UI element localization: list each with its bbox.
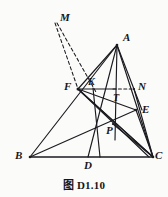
point-label-D: D — [84, 160, 92, 171]
point-label-C: C — [155, 150, 162, 161]
side-AB — [30, 45, 117, 157]
point-label-E: E — [142, 104, 149, 115]
point-label-P: P — [106, 125, 113, 136]
vertex-dot-A — [116, 44, 119, 47]
cevian-BE — [30, 110, 136, 157]
vertex-dot-N — [133, 88, 135, 90]
vertex-dot-B — [29, 156, 32, 159]
vertex-dot-C — [152, 156, 155, 159]
point-label-T: T — [113, 93, 119, 103]
point-label-F: F — [64, 81, 71, 92]
point-label-N: N — [138, 81, 146, 92]
segment-AN — [117, 45, 142, 110]
point-label-B: B — [15, 150, 22, 161]
vertex-dot-E — [135, 109, 137, 111]
point-label-A: A — [123, 32, 130, 43]
geometry-figure: A B C D E F K M N P T 图 D1.10 — [0, 0, 168, 197]
point-label-K: K — [88, 77, 95, 87]
segment-NC — [134, 89, 153, 157]
figure-caption: 图 D1.10 — [0, 176, 168, 192]
point-label-M: M — [60, 12, 70, 23]
segment-FE — [78, 89, 136, 110]
segment-KD — [93, 88, 100, 157]
vertex-dot-F — [77, 88, 80, 91]
